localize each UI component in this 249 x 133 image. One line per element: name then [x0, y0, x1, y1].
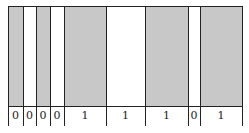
bit-label: 0: [36, 109, 50, 123]
bit-cell: [23, 6, 36, 106]
bit-label: 0: [8, 109, 23, 123]
cell-divider: [50, 6, 51, 126]
cell-divider: [106, 6, 107, 126]
bit-label: 1: [64, 109, 106, 123]
cell-divider: [200, 6, 201, 126]
bit-label: 0: [188, 109, 200, 123]
bit-label: 0: [23, 109, 36, 123]
bit-label: 1: [145, 109, 188, 123]
bit-cell: [50, 6, 64, 106]
bit-label: 1: [200, 109, 242, 123]
cell-divider: [64, 6, 65, 126]
cell-divider: [145, 6, 146, 126]
bit-cell: [64, 6, 106, 106]
cell-divider: [242, 6, 243, 126]
cell-divider: [8, 6, 9, 126]
bit-cell: [106, 6, 145, 106]
bit-label: 0: [50, 109, 64, 123]
bit-cell: [8, 6, 23, 106]
cell-divider: [36, 6, 37, 126]
horizontal-border: [8, 6, 243, 7]
bit-label: 1: [106, 109, 145, 123]
cell-divider: [23, 6, 24, 126]
bit-cell: [145, 6, 188, 106]
bit-cell: [200, 6, 242, 106]
bit-cell: [188, 6, 200, 106]
horizontal-border: [8, 106, 243, 107]
bit-cell: [36, 6, 50, 106]
cell-divider: [188, 6, 189, 126]
